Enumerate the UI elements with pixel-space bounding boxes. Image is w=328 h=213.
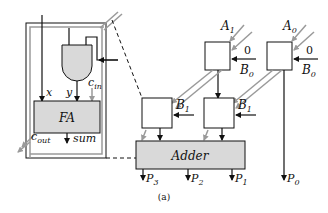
a1-label: A1 (220, 19, 235, 35)
adder-block: Adder (136, 141, 245, 169)
cin-label: cin (88, 76, 102, 91)
cout-wire (18, 142, 30, 152)
a0-label: A0 (282, 19, 297, 35)
y-label: y (65, 86, 73, 99)
figure-caption: (a) (158, 192, 170, 202)
p3-label: P3 (145, 172, 159, 187)
svg-text:0: 0 (306, 44, 313, 57)
x-label: x (46, 86, 53, 99)
cell-a1: A1 0 B0 (205, 19, 256, 98)
svg-text:B1: B1 (175, 98, 190, 114)
svg-text:B1: B1 (237, 98, 252, 114)
p2-label: P2 (190, 172, 204, 187)
cell-detail: x y cin FA cout sum (18, 12, 122, 158)
p0-label: P0 (286, 172, 300, 187)
fa-label: FA (58, 111, 75, 125)
cell-mid-right: B1 (204, 98, 256, 140)
zoom-guide-line (112, 20, 142, 98)
cell-mid-left: B1 (142, 98, 194, 140)
p1-label: P1 (234, 172, 248, 187)
svg-text:B0: B0 (239, 63, 254, 79)
adder-label: Adder (171, 149, 210, 163)
array-multiplier-diagram: x y cin FA cout sum A1 0 B0 A0 0 B0 (0, 0, 328, 213)
cell-a0: A0 0 B0 (267, 19, 318, 180)
svg-text:B0: B0 (301, 63, 316, 79)
sum-label: sum (73, 132, 96, 145)
svg-text:0: 0 (244, 44, 251, 57)
